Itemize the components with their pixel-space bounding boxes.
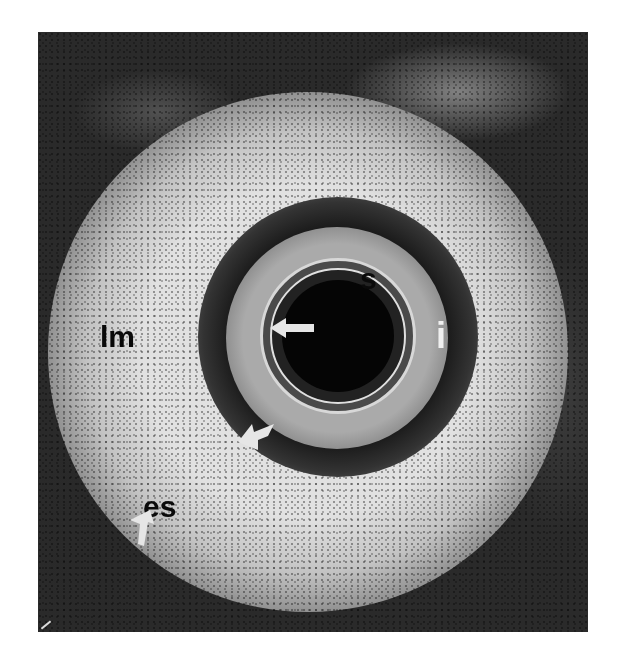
label-lm: lm bbox=[100, 322, 135, 352]
label-s: s bbox=[360, 264, 377, 294]
inner-arrow-icon bbox=[270, 318, 314, 338]
es-arrow-icon bbox=[130, 510, 156, 546]
ultrasound-image: lm s i es bbox=[38, 32, 588, 632]
curved-arrow-icon bbox=[238, 420, 278, 450]
label-i: i bbox=[436, 318, 446, 354]
